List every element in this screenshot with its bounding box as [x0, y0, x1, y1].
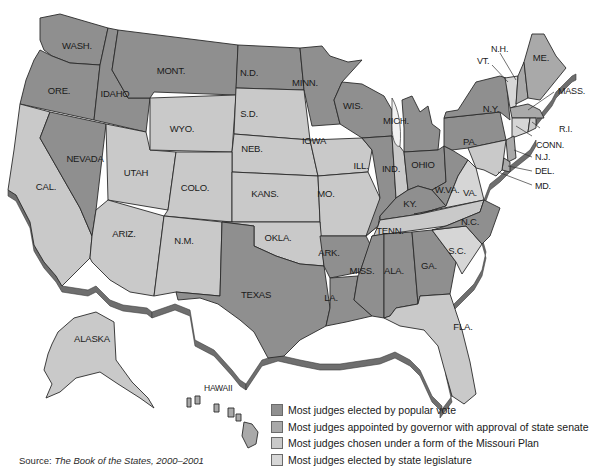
label-mass: MASS. [558, 86, 585, 96]
legend-label: Most judges chosen under a form of the M… [288, 437, 539, 449]
legend-label: Most judges elected by state legislature [288, 454, 472, 466]
label-okla: OKLA. [265, 232, 292, 243]
label-neb: NEB. [241, 143, 262, 154]
legend-swatch [271, 404, 283, 416]
label-ohio: OHIO [411, 159, 434, 170]
label-mich: MICH. [383, 115, 409, 126]
label-md: MD. [535, 181, 551, 191]
source-title: The Book of the States, 2000–2001 [54, 455, 203, 466]
label-cal: CAL. [36, 181, 56, 192]
label-ga: GA. [421, 260, 437, 271]
label-sc: S.C. [448, 245, 466, 256]
label-hawaii: HAWAII [204, 383, 232, 393]
label-sd: S.D. [240, 108, 258, 119]
label-nj: N.J. [535, 152, 550, 162]
label-texas: TEXAS [241, 289, 271, 300]
state-hawaii [187, 396, 258, 448]
label-colo: COLO. [181, 182, 210, 193]
state-nj [506, 136, 516, 162]
label-alaska: ALASKA [74, 333, 110, 344]
label-minn: MINN. [292, 77, 318, 88]
label-ky: KY. [403, 198, 417, 209]
label-utah: UTAH [124, 167, 148, 178]
label-mo: MO. [317, 188, 334, 199]
label-mont: MONT. [157, 65, 186, 76]
state-alaska [44, 312, 154, 408]
label-wva: W.VA. [435, 184, 460, 195]
label-vt: VT. [477, 56, 489, 66]
legend-label: Most judges elected by popular vote [288, 404, 456, 416]
label-ill: ILL. [353, 160, 368, 171]
label-nh: N.H. [491, 44, 508, 54]
label-ark: ARK. [318, 247, 339, 258]
state-fla [384, 294, 476, 404]
label-ri: R.I. [559, 124, 572, 134]
label-kans: KANS. [251, 188, 279, 199]
label-nm: N.M. [174, 235, 193, 246]
label-del: DEL. [535, 166, 554, 176]
legend: Most judges elected by popular vote Most… [271, 402, 589, 468]
label-wyo: WYO. [170, 123, 195, 134]
state-ariz [90, 200, 164, 296]
legend-item-missouri-plan: Most judges chosen under a form of the M… [271, 435, 589, 452]
label-wash: WASH. [62, 40, 92, 51]
legend-item-popular-vote: Most judges elected by popular vote [271, 402, 589, 419]
label-ariz: ARIZ. [112, 228, 135, 239]
label-nevada: NEVADA [66, 153, 103, 164]
label-nd: N.D. [240, 67, 258, 78]
legend-swatch [271, 454, 283, 466]
legend-swatch [271, 421, 283, 433]
label-me: ME. [533, 52, 549, 63]
label-wis: WIS. [343, 100, 363, 111]
label-fla: FLA. [453, 321, 472, 332]
legend-label: Most judges appointed by governor with a… [288, 421, 589, 433]
label-miss: MISS. [350, 265, 375, 276]
label-va: VA. [463, 187, 477, 198]
legend-item-legislature: Most judges elected by state legislature [271, 452, 589, 469]
label-idaho: IDAHO [100, 88, 129, 99]
state-nm [154, 216, 222, 296]
label-conn: CONN. [536, 140, 564, 150]
label-iowa: IOWA [302, 135, 326, 146]
legend-item-governor-senate: Most judges appointed by governor with a… [271, 419, 589, 436]
source-note: Source: The Book of the States, 2000–200… [19, 455, 204, 466]
label-tenn: TENN. [376, 225, 404, 236]
state-conn [512, 118, 530, 138]
label-ala: ALA. [384, 265, 404, 276]
label-ind: IND. [382, 163, 400, 174]
label-pa: PA. [463, 136, 477, 147]
label-la: LA. [324, 292, 338, 303]
label-nc: N.C. [461, 216, 479, 227]
label-ny: N.Y. [483, 103, 499, 114]
source-prefix: Source: [19, 455, 54, 466]
label-ore: ORE. [48, 85, 70, 96]
legend-swatch [271, 437, 283, 449]
